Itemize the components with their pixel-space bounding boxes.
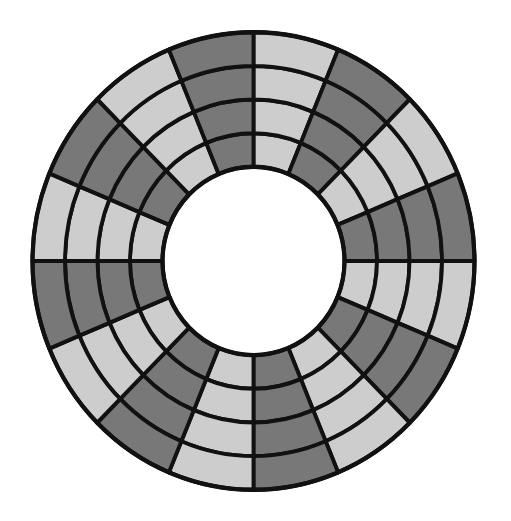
ring-group [33, 32, 475, 489]
inner-boundary [163, 167, 345, 355]
segmented-ring-diagram [0, 0, 511, 521]
